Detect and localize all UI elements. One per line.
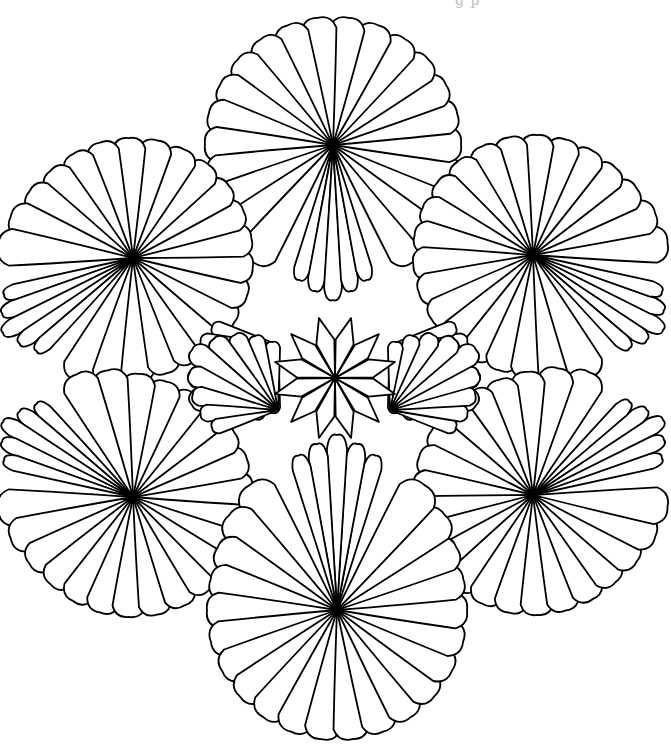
fan-inner-lower-left xyxy=(188,333,280,434)
fan-inner-lower-right xyxy=(388,333,480,434)
mandala-drawing xyxy=(0,0,671,756)
center-flower xyxy=(275,318,395,438)
